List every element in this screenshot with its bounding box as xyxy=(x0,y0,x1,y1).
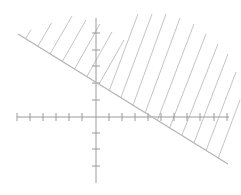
inequality-graph xyxy=(0,0,241,195)
x-axis xyxy=(17,113,229,121)
hatch-region xyxy=(26,8,240,164)
y-axis xyxy=(92,18,100,183)
